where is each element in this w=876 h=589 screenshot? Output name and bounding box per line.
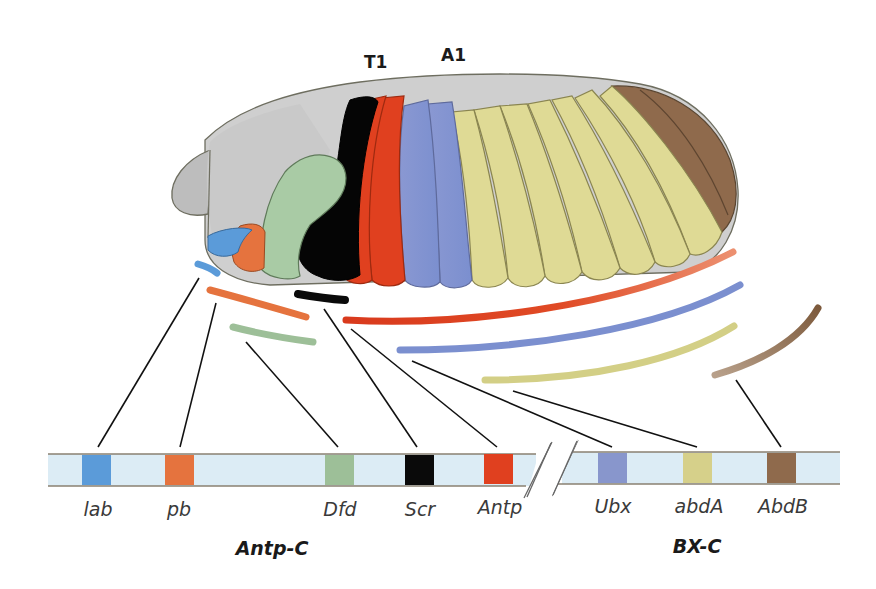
connector-dfd xyxy=(246,342,338,447)
gene-box-ubx xyxy=(598,453,627,483)
gene-box-scr xyxy=(405,455,434,485)
arc-abdb xyxy=(715,308,818,375)
cluster-label-antp-c: Antp-C xyxy=(236,537,309,559)
gene-label-scr: Scr xyxy=(405,498,435,520)
gene-box-dfd xyxy=(325,455,354,485)
gene-label-pb: pb xyxy=(167,498,191,520)
gene-label-ubx: Ubx xyxy=(594,495,631,517)
embryo xyxy=(172,74,738,288)
gene-label-lab: lab xyxy=(84,498,113,520)
arc-pb xyxy=(210,290,306,317)
head-lobe xyxy=(172,150,212,215)
gene-box-abda xyxy=(683,453,712,483)
connector-lab xyxy=(98,278,199,447)
arc-scr xyxy=(298,294,345,300)
arc-abda xyxy=(485,326,734,380)
connector-pb xyxy=(180,303,216,447)
cluster-label-bx-c: BX-C xyxy=(673,535,722,557)
arc-dfd xyxy=(233,327,313,342)
gene-box-antp xyxy=(484,454,513,484)
connector-abdb xyxy=(736,380,781,447)
gene-label-dfd: Dfd xyxy=(323,498,356,520)
segment-label-t1: T1 xyxy=(364,52,387,72)
connector-abda xyxy=(513,391,697,447)
connector-lines xyxy=(98,278,781,447)
gene-box-lab xyxy=(82,455,111,485)
segment-label-a1: A1 xyxy=(441,45,466,65)
chromosome xyxy=(48,440,840,498)
connector-scr xyxy=(324,309,417,447)
gene-box-pb xyxy=(165,455,194,485)
gene-label-antp: Antp xyxy=(478,496,523,518)
gene-box-abdb xyxy=(767,453,796,483)
chromosome-left xyxy=(48,454,536,486)
gene-label-abdb: AbdB xyxy=(758,495,808,517)
hox-diagram xyxy=(0,0,876,589)
arc-lab xyxy=(198,264,217,273)
gene-label-abda: abdA xyxy=(675,495,724,517)
